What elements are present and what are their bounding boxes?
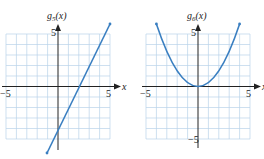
y-axis-label: g5(x) <box>47 10 67 23</box>
x-axis-arrow-icon <box>114 84 121 90</box>
x-tick-label-min: −5 <box>140 88 151 99</box>
x-axis-label: x <box>261 81 264 92</box>
line-end-dot <box>46 152 49 155</box>
y-axis-label: g6(x) <box>187 10 207 23</box>
line-end-dot <box>109 23 112 26</box>
x-tick-label-max: 5 <box>106 88 111 99</box>
x-tick-label-max: 5 <box>246 88 251 99</box>
figure: g5(x) 5 −5 5 x g6(x) 5 −5 −5 5 x <box>0 0 264 159</box>
x-axis-label: x <box>121 81 127 92</box>
y-tick-label-max: 5 <box>191 27 196 38</box>
y-tick-label-min: −5 <box>188 134 199 145</box>
x-tick-label-min: −5 <box>0 88 11 99</box>
y-tick-label-max: 5 <box>51 27 56 38</box>
plot-g5: g5(x) 5 −5 5 x <box>0 10 127 154</box>
plot-g6: g6(x) 5 −5 −5 5 x <box>140 10 264 148</box>
curve-end-dot <box>155 23 158 26</box>
x-axis-arrow-icon <box>254 84 261 90</box>
curve-end-dot <box>238 23 241 26</box>
